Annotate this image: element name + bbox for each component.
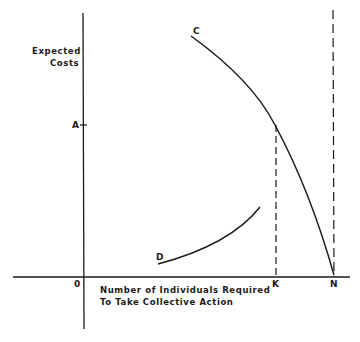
x-tick-label-K: K	[272, 280, 279, 289]
y-axis-title-line2: Costs	[50, 59, 79, 68]
dashed-line-N	[333, 10, 334, 277]
x-axis-title-line2: To Take Collective Action	[100, 298, 234, 307]
y-axis	[83, 13, 84, 329]
curve-C-label: C	[193, 27, 200, 36]
curve-C	[191, 36, 334, 275]
curve-D-label: D	[156, 253, 163, 262]
x-tick-label-N: N	[330, 280, 338, 289]
y-axis-title-line1: Expected	[32, 47, 81, 56]
y-tick-label-A: A	[72, 121, 79, 130]
origin-label: 0	[74, 280, 80, 289]
curve-D	[158, 207, 260, 264]
x-axis-title-line1: Number of Individuals Required	[100, 286, 270, 295]
